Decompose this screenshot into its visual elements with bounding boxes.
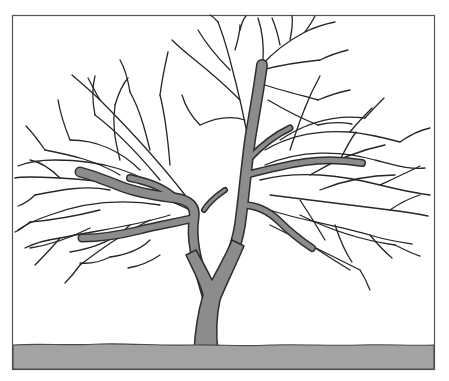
tree-illustration [0, 0, 449, 381]
tree-drawing [0, 0, 449, 381]
ground [13, 344, 434, 369]
